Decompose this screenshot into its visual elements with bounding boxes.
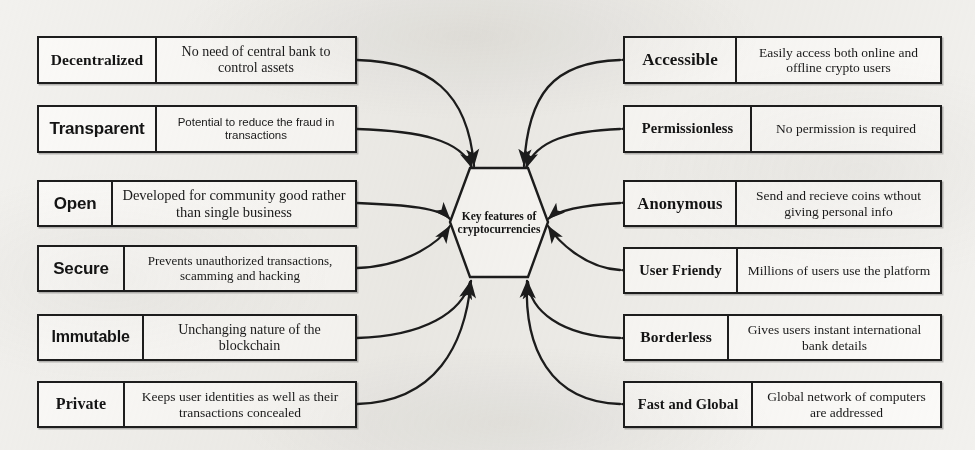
feature-box-transparent[interactable]: Transparent Potential to reduce the frau… [37,105,357,153]
feature-box-fast-and-global[interactable]: Fast and Global Global network of comput… [623,381,942,428]
connector-transparent [357,129,472,168]
connector-immutable [357,282,470,338]
feature-desc-accessible: Easily access both online and offline cr… [737,38,940,82]
feature-desc-fast-and-global: Global network of computers are addresse… [753,383,940,426]
feature-label-accessible: Accessible [625,38,737,82]
feature-label-borderless: Borderless [625,316,729,359]
feature-box-anonymous[interactable]: Anonymous Send and recieve coins wthout … [623,180,942,227]
connector-open [357,203,450,219]
feature-desc-anonymous: Send and recieve coins wthout giving per… [737,182,940,225]
feature-label-open: Open [39,182,113,225]
feature-box-user-friendy[interactable]: User Friendy Millions of users use the p… [623,247,942,294]
feature-label-permissionless: Permissionless [625,107,752,151]
feature-label-transparent: Transparent [39,107,157,151]
feature-label-decentralized: Decentralized [39,38,157,82]
feature-desc-immutable: Unchanging nature of the blockchain [144,316,355,359]
feature-box-permissionless[interactable]: Permissionless No permission is required [623,105,942,153]
diagram-canvas: Key features of cryptocurrencies Decentr… [0,0,975,450]
feature-desc-secure: Prevents unauthorized transactions, scam… [125,247,355,290]
connector-private [357,281,471,404]
feature-box-private[interactable]: Private Keeps user identities as well as… [37,381,357,428]
connector-anonymous [548,203,620,219]
feature-label-private: Private [39,383,125,426]
feature-label-fast-and-global: Fast and Global [625,383,753,426]
feature-box-immutable[interactable]: Immutable Unchanging nature of the block… [37,314,357,361]
feature-label-user-friendy: User Friendy [625,249,738,292]
feature-desc-transparent: Potential to reduce the fraud in transac… [157,107,355,151]
feature-box-accessible[interactable]: Accessible Easily access both online and… [623,36,942,84]
feature-desc-private: Keeps user identities as well as their t… [125,383,355,426]
connector-permissionless [526,129,620,168]
feature-desc-decentralized: No need of central bank to control asset… [157,38,355,82]
hub-node: Key features of cryptocurrencies [450,168,548,277]
feature-desc-open: Developed for community good rather than… [113,182,355,225]
feature-box-borderless[interactable]: Borderless Gives users instant internati… [623,314,942,361]
feature-label-secure: Secure [39,247,125,290]
connector-fast-and-global [527,281,620,404]
hub-label: Key features of cryptocurrencies [450,210,548,236]
feature-desc-permissionless: No permission is required [752,107,940,151]
connector-user-friendy [548,226,620,270]
feature-desc-borderless: Gives users instant international bank d… [729,316,940,359]
connector-borderless [528,282,620,338]
connector-secure [357,226,450,268]
feature-label-anonymous: Anonymous [625,182,737,225]
feature-box-decentralized[interactable]: Decentralized No need of central bank to… [37,36,357,84]
feature-box-open[interactable]: Open Developed for community good rather… [37,180,357,227]
feature-box-secure[interactable]: Secure Prevents unauthorized transaction… [37,245,357,292]
feature-desc-user-friendy: Millions of users use the platform [738,249,940,292]
feature-label-immutable: Immutable [39,316,144,359]
